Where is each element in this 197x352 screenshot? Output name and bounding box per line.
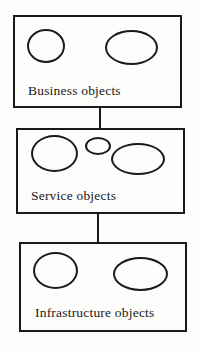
service-object-ellipse-small bbox=[85, 137, 111, 155]
business-objects-box: Business objects bbox=[13, 15, 182, 108]
infrastructure-object-ellipse-left bbox=[33, 252, 78, 289]
infrastructure-object-ellipse-right bbox=[113, 257, 168, 291]
service-objects-box: Service objects bbox=[16, 128, 185, 214]
service-object-ellipse-left bbox=[31, 135, 78, 172]
connector-service-infrastructure bbox=[97, 213, 99, 243]
layered-objects-diagram: Business objects Service objects Infrast… bbox=[0, 0, 197, 352]
business-object-ellipse-right bbox=[105, 30, 158, 65]
infrastructure-objects-label: Infrastructure objects bbox=[35, 305, 154, 321]
business-objects-label: Business objects bbox=[28, 83, 121, 99]
connector-business-service bbox=[99, 107, 101, 129]
infrastructure-objects-box: Infrastructure objects bbox=[19, 242, 187, 332]
service-objects-label: Service objects bbox=[31, 188, 116, 204]
business-object-ellipse-left bbox=[27, 29, 65, 63]
service-object-ellipse-right bbox=[111, 143, 165, 175]
